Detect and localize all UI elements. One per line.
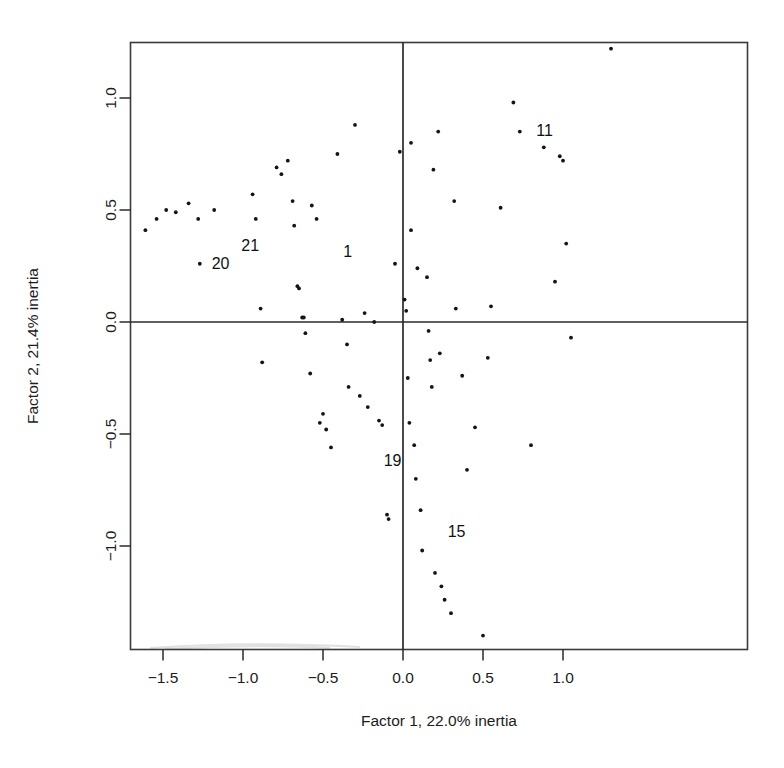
data-point: [432, 168, 436, 172]
data-point: [460, 374, 464, 378]
data-point: [425, 275, 429, 279]
point-label-20: 20: [212, 255, 230, 272]
data-point: [292, 224, 296, 228]
data-point: [347, 385, 351, 389]
data-point: [465, 468, 469, 472]
data-point: [427, 329, 431, 333]
data-point: [286, 159, 290, 163]
data-point: [340, 318, 344, 322]
data-point: [310, 204, 314, 208]
data-point: [452, 199, 456, 203]
data-point: [403, 298, 407, 302]
data-point: [481, 634, 485, 638]
data-point: [387, 517, 391, 521]
x-tick-label: 0.0: [392, 669, 414, 686]
point-label-15: 15: [448, 523, 466, 540]
data-point: [486, 356, 490, 360]
data-point: [198, 262, 202, 266]
data-point: [398, 150, 402, 154]
data-point: [416, 266, 420, 270]
data-point: [512, 101, 516, 105]
x-tick-label: −1.0: [228, 669, 259, 686]
point-label-1: 1: [343, 243, 352, 260]
data-point: [308, 372, 312, 376]
data-point: [372, 320, 376, 324]
x-tick-label: 0.5: [472, 669, 494, 686]
data-point: [564, 242, 568, 246]
y-tick-label: 0.0: [102, 311, 119, 333]
y-tick-label: −0.5: [102, 419, 119, 450]
data-point: [280, 172, 284, 176]
data-point: [428, 358, 432, 362]
data-point: [366, 405, 370, 409]
data-point: [430, 385, 434, 389]
data-point: [436, 130, 440, 134]
data-point: [443, 598, 447, 602]
x-tick-label: 1.0: [552, 669, 574, 686]
data-point: [275, 166, 279, 170]
data-point: [454, 307, 458, 311]
data-point: [196, 217, 200, 221]
data-point: [345, 343, 349, 347]
data-point: [404, 309, 408, 313]
data-point: [499, 206, 503, 210]
data-point: [260, 360, 264, 364]
x-axis-title: Factor 1, 22.0% inertia: [361, 712, 517, 729]
y-tick-label: 0.5: [102, 199, 119, 221]
data-point: [321, 412, 325, 416]
data-point: [358, 394, 362, 398]
data-point: [409, 228, 413, 232]
data-point: [609, 47, 613, 51]
data-point: [433, 571, 437, 575]
figure-background: [0, 0, 784, 768]
data-point: [412, 443, 416, 447]
data-point: [420, 549, 424, 553]
data-point: [380, 423, 384, 427]
data-point: [363, 311, 367, 315]
data-point: [155, 217, 159, 221]
data-point: [542, 145, 546, 149]
data-point: [489, 304, 493, 308]
data-point: [473, 425, 477, 429]
data-point: [254, 217, 258, 221]
x-tick-label: −0.5: [308, 669, 339, 686]
data-point: [569, 336, 573, 340]
scatter-plot-canvas: −1.5−1.0−0.50.00.51.0 −1.0−0.50.00.51.0 …: [0, 0, 784, 768]
data-point: [187, 201, 191, 205]
point-label-19: 19: [384, 452, 402, 469]
data-point: [336, 152, 340, 156]
data-point: [144, 228, 148, 232]
data-point: [212, 208, 216, 212]
data-point: [251, 192, 255, 196]
y-tick-label: 1.0: [102, 87, 119, 109]
data-point: [440, 584, 444, 588]
data-point: [449, 611, 453, 615]
data-point: [385, 513, 389, 517]
data-point: [553, 280, 557, 284]
x-tick-label: −1.5: [148, 669, 179, 686]
data-point: [561, 159, 565, 163]
point-label-21: 21: [241, 237, 259, 254]
data-point: [329, 446, 333, 450]
data-point: [377, 419, 381, 423]
data-point: [164, 208, 168, 212]
data-point: [297, 287, 301, 291]
data-point: [406, 376, 410, 380]
data-point: [409, 141, 413, 145]
data-point: [315, 217, 319, 221]
scatter-plot-figure: −1.5−1.0−0.50.00.51.0 −1.0−0.50.00.51.0 …: [0, 0, 784, 768]
data-point: [414, 477, 418, 481]
data-point: [324, 428, 328, 432]
data-point: [353, 123, 357, 127]
data-point: [291, 199, 295, 203]
y-tick-label: −1.0: [102, 530, 119, 561]
data-point: [302, 316, 306, 320]
data-point: [419, 508, 423, 512]
data-point: [318, 421, 322, 425]
data-point: [304, 331, 308, 335]
data-point: [393, 262, 397, 266]
y-axis-title: Factor 2, 21.4% inertia: [24, 268, 41, 424]
point-label-11: 11: [536, 122, 553, 139]
data-point: [558, 154, 562, 158]
data-point: [408, 421, 412, 425]
